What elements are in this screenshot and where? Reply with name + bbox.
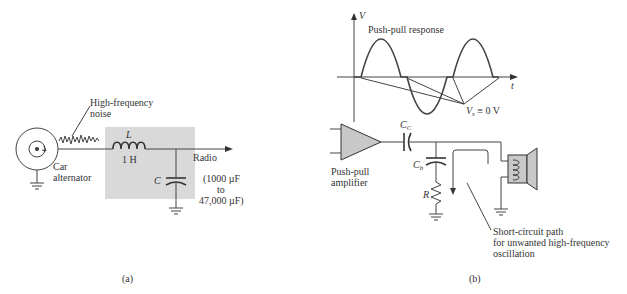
noise-label-2: noise bbox=[90, 108, 112, 119]
path-label-2: for unwanted high-frequency bbox=[493, 237, 610, 248]
alternator-icon bbox=[16, 128, 58, 170]
figure-canvas: High-frequency noise Car alternator L 1 … bbox=[0, 0, 627, 294]
noise-waveform-icon bbox=[59, 135, 99, 144]
noise-leader-line bbox=[72, 106, 90, 136]
y-axis-label: V bbox=[359, 10, 367, 21]
bypass-cap-symbol: Cb bbox=[413, 159, 424, 172]
short-circuit-path-arrow bbox=[453, 150, 488, 190]
inductor-value: 1 H bbox=[122, 154, 137, 165]
path-label-3: oscillation bbox=[493, 248, 535, 259]
ground-icon bbox=[429, 214, 443, 220]
vs-annotation: Vs ≡ 0 V bbox=[466, 105, 501, 118]
plot-title: Push-pull response bbox=[368, 24, 444, 35]
source-label-2: alternator bbox=[53, 172, 92, 183]
arrow-icon bbox=[225, 146, 233, 152]
filter-shade-box bbox=[105, 127, 195, 199]
ground-icon bbox=[169, 208, 183, 214]
response-plot: V t Push-pull response Vs ≡ 0 V bbox=[337, 10, 518, 122]
resistor-symbol: R bbox=[422, 189, 429, 200]
inductor-symbol: L bbox=[125, 129, 132, 140]
amplifier-label: Push-pull bbox=[331, 166, 370, 177]
output-label: Radio bbox=[193, 152, 217, 163]
capacitor-symbol: C bbox=[154, 175, 161, 186]
path-label: Short-circuit path bbox=[493, 226, 563, 237]
cap-range-2: to bbox=[217, 184, 225, 195]
cap-range-3: 47,000 µF) bbox=[199, 195, 244, 207]
amplifier-label-2: amplifier bbox=[331, 177, 368, 188]
ground-icon bbox=[30, 170, 44, 189]
coupling-cap-symbol: CC bbox=[400, 119, 412, 132]
figure-b: V t Push-pull response Vs ≡ 0 V Push-pul… bbox=[330, 10, 610, 285]
resistor-icon bbox=[431, 182, 441, 204]
path-leader-line bbox=[467, 183, 491, 230]
caption-a: (a) bbox=[122, 273, 133, 285]
speaker-icon bbox=[508, 148, 537, 190]
ground-icon bbox=[494, 209, 508, 215]
caption-b: (b) bbox=[469, 273, 481, 285]
source-label: Car bbox=[53, 161, 68, 172]
amplifier-icon bbox=[330, 124, 381, 160]
figure-a: High-frequency noise Car alternator L 1 … bbox=[16, 97, 244, 285]
noise-label: High-frequency bbox=[90, 97, 153, 108]
crossover-pointer-lines bbox=[361, 78, 499, 104]
x-axis-label: t bbox=[511, 80, 514, 91]
arrow-icon bbox=[450, 188, 456, 195]
